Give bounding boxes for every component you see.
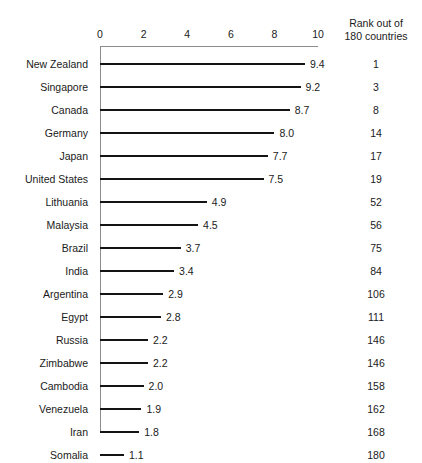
bar-value-label: 7.7 xyxy=(273,146,288,166)
bar xyxy=(100,63,305,65)
bar xyxy=(100,339,148,341)
rank-value: 146 xyxy=(330,353,422,373)
category-label: United States xyxy=(0,169,88,189)
category-label: Iran xyxy=(0,422,88,442)
chart-row: India3.484 xyxy=(0,261,422,281)
bar xyxy=(100,408,141,410)
bar-value-label: 1.9 xyxy=(146,399,161,419)
bar xyxy=(100,155,268,157)
bar xyxy=(100,385,144,387)
rank-value: 111 xyxy=(330,307,422,327)
chart-row: Zimbabwe2.2146 xyxy=(0,353,422,373)
bar xyxy=(100,270,174,272)
bar xyxy=(100,362,148,364)
bar xyxy=(100,247,181,249)
chart-row: New Zealand9.41 xyxy=(0,54,422,74)
rank-value: 158 xyxy=(330,376,422,396)
bar-value-label: 2.8 xyxy=(166,307,181,327)
category-label: Brazil xyxy=(0,238,88,258)
rank-value: 14 xyxy=(330,123,422,143)
bar xyxy=(100,454,124,456)
bar xyxy=(100,109,290,111)
chart-row: Russia2.2146 xyxy=(0,330,422,350)
bar xyxy=(100,316,161,318)
bar-value-label: 1.1 xyxy=(129,445,144,463)
bar-value-label: 1.8 xyxy=(144,422,159,442)
rank-value: 56 xyxy=(330,215,422,235)
bar-value-label: 2.9 xyxy=(168,284,183,304)
category-label: Venezuela xyxy=(0,399,88,419)
rank-value: 17 xyxy=(330,146,422,166)
category-label: Egypt xyxy=(0,307,88,327)
rank-value: 19 xyxy=(330,169,422,189)
category-label: Russia xyxy=(0,330,88,350)
chart-row: Brazil3.775 xyxy=(0,238,422,258)
bar-value-label: 9.4 xyxy=(310,54,325,74)
bar xyxy=(100,224,198,226)
rank-value: 3 xyxy=(330,77,422,97)
chart-row: Somalia1.1180 xyxy=(0,445,422,463)
chart-row: Lithuania4.952 xyxy=(0,192,422,212)
rank-value: 84 xyxy=(330,261,422,281)
category-label: Somalia xyxy=(0,445,88,463)
bar-value-label: 2.0 xyxy=(149,376,164,396)
rank-value: 75 xyxy=(330,238,422,258)
chart-row: Venezuela1.9162 xyxy=(0,399,422,419)
chart-row: Cambodia2.0158 xyxy=(0,376,422,396)
bar xyxy=(100,431,139,433)
category-label: India xyxy=(0,261,88,281)
bar-value-label: 9.2 xyxy=(306,77,321,97)
rank-value: 1 xyxy=(330,54,422,74)
category-label: Cambodia xyxy=(0,376,88,396)
bar-value-label: 3.4 xyxy=(179,261,194,281)
bar xyxy=(100,293,163,295)
bar xyxy=(100,201,207,203)
category-label: Germany xyxy=(0,123,88,143)
chart-row: United States7.519 xyxy=(0,169,422,189)
chart-row: Germany8.014 xyxy=(0,123,422,143)
bar xyxy=(100,86,301,88)
rank-value: 180 xyxy=(330,445,422,463)
category-label: Lithuania xyxy=(0,192,88,212)
category-label: Canada xyxy=(0,100,88,120)
bar-value-label: 4.9 xyxy=(212,192,227,212)
chart-row: Argentina2.9106 xyxy=(0,284,422,304)
chart-row: Malaysia4.556 xyxy=(0,215,422,235)
bar-value-label: 7.5 xyxy=(269,169,284,189)
rank-value: 146 xyxy=(330,330,422,350)
category-label: Argentina xyxy=(0,284,88,304)
rank-value: 162 xyxy=(330,399,422,419)
rank-value: 106 xyxy=(330,284,422,304)
rank-value: 168 xyxy=(330,422,422,442)
bar-value-label: 8.7 xyxy=(295,100,310,120)
rank-value: 52 xyxy=(330,192,422,212)
bar-value-label: 4.5 xyxy=(203,215,218,235)
chart-row: Canada8.78 xyxy=(0,100,422,120)
category-label: New Zealand xyxy=(0,54,88,74)
chart-row: Iran1.8168 xyxy=(0,422,422,442)
bar-value-label: 2.2 xyxy=(153,330,168,350)
category-label: Malaysia xyxy=(0,215,88,235)
chart-row: Singapore9.23 xyxy=(0,77,422,97)
bar-value-label: 2.2 xyxy=(153,353,168,373)
bar xyxy=(100,132,274,134)
rank-value: 8 xyxy=(330,100,422,120)
bar-value-label: 3.7 xyxy=(186,238,201,258)
category-label: Japan xyxy=(0,146,88,166)
bar xyxy=(100,178,264,180)
chart-row: Japan7.717 xyxy=(0,146,422,166)
category-label: Zimbabwe xyxy=(0,353,88,373)
chart-row: Egypt2.8111 xyxy=(0,307,422,327)
bar-value-label: 8.0 xyxy=(279,123,294,143)
category-label: Singapore xyxy=(0,77,88,97)
